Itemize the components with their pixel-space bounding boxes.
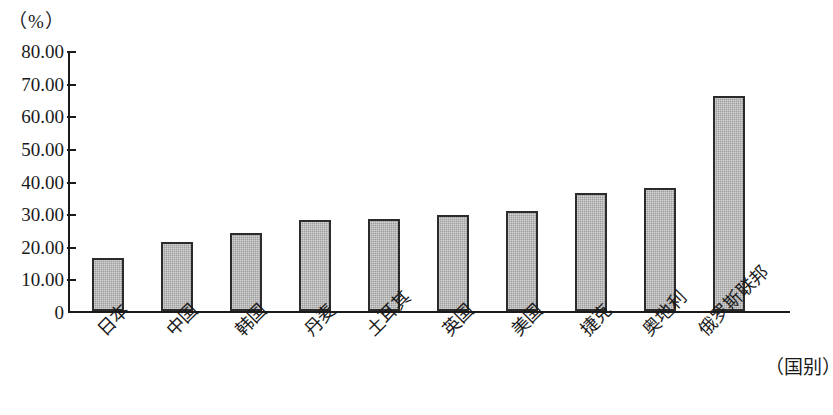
bar [299,220,331,311]
y-axis-tick-label: 20.00 [2,237,64,256]
y-axis-tick-label: 80.00 [2,42,64,61]
y-axis-tick-label: 0 [2,303,64,322]
y-axis-tick-label: 60.00 [2,107,64,126]
y-axis-tick-label: 30.00 [2,205,64,224]
bar [506,211,538,311]
y-axis-tick-label: 70.00 [2,74,64,93]
x-axis-title: （国别） [765,352,833,379]
y-axis-tick-label: 50.00 [2,139,64,158]
bar [575,193,607,311]
y-axis-tick-label: 40.00 [2,172,64,191]
bar [437,215,469,311]
x-axis-category-labels: 日本中国韩国丹麦土耳其英国美国捷克奥地利俄罗斯联邦（国别） [68,312,824,415]
bar-series [68,51,790,312]
y-axis-tick-labels: 80.0070.0060.0050.0040.0030.0020.0010.00… [0,0,64,415]
plot-area [68,51,790,312]
y-axis-tick-label: 10.00 [2,270,64,289]
